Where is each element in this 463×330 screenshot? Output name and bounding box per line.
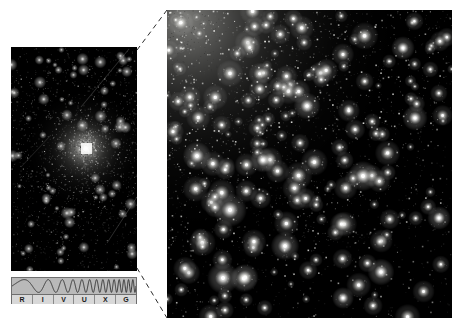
electromagnetic-spectrum-bar: RIVUXG [11, 277, 137, 304]
spectrum-label-row: RIVUXG [12, 294, 136, 304]
spectrum-band-gamma-ray: G [116, 295, 136, 304]
globular-cluster-wide-field-panel[interactable] [11, 47, 137, 271]
spectrum-waveform-path [12, 280, 136, 293]
spectrum-band-x-ray: X [95, 295, 116, 304]
spectrum-wave-area [12, 278, 136, 294]
figure-root: RIVUXG [0, 0, 463, 330]
spectrum-band-letter: X [103, 296, 108, 303]
zoom-callout-line-2 [137, 268, 167, 318]
zoom-callout-line-1 [137, 10, 167, 50]
spectrum-band-letter: V [61, 296, 66, 303]
zoom-field-starfield-canvas [167, 10, 452, 318]
spectrum-band-visible: V [54, 295, 75, 304]
spectrum-band-radio: R [12, 295, 33, 304]
spectrum-band-letter: U [82, 296, 87, 303]
spectrum-band-letter: I [42, 296, 44, 303]
spectrum-band-letter: G [123, 296, 128, 303]
spectrum-band-ultraviolet: U [74, 295, 95, 304]
globular-cluster-core-zoom-panel[interactable] [167, 10, 452, 318]
spectrum-band-infrared: I [33, 295, 54, 304]
spectrum-wave-icon [12, 278, 136, 294]
spectrum-band-letter: R [19, 296, 24, 303]
wide-field-starfield-canvas [11, 47, 137, 271]
